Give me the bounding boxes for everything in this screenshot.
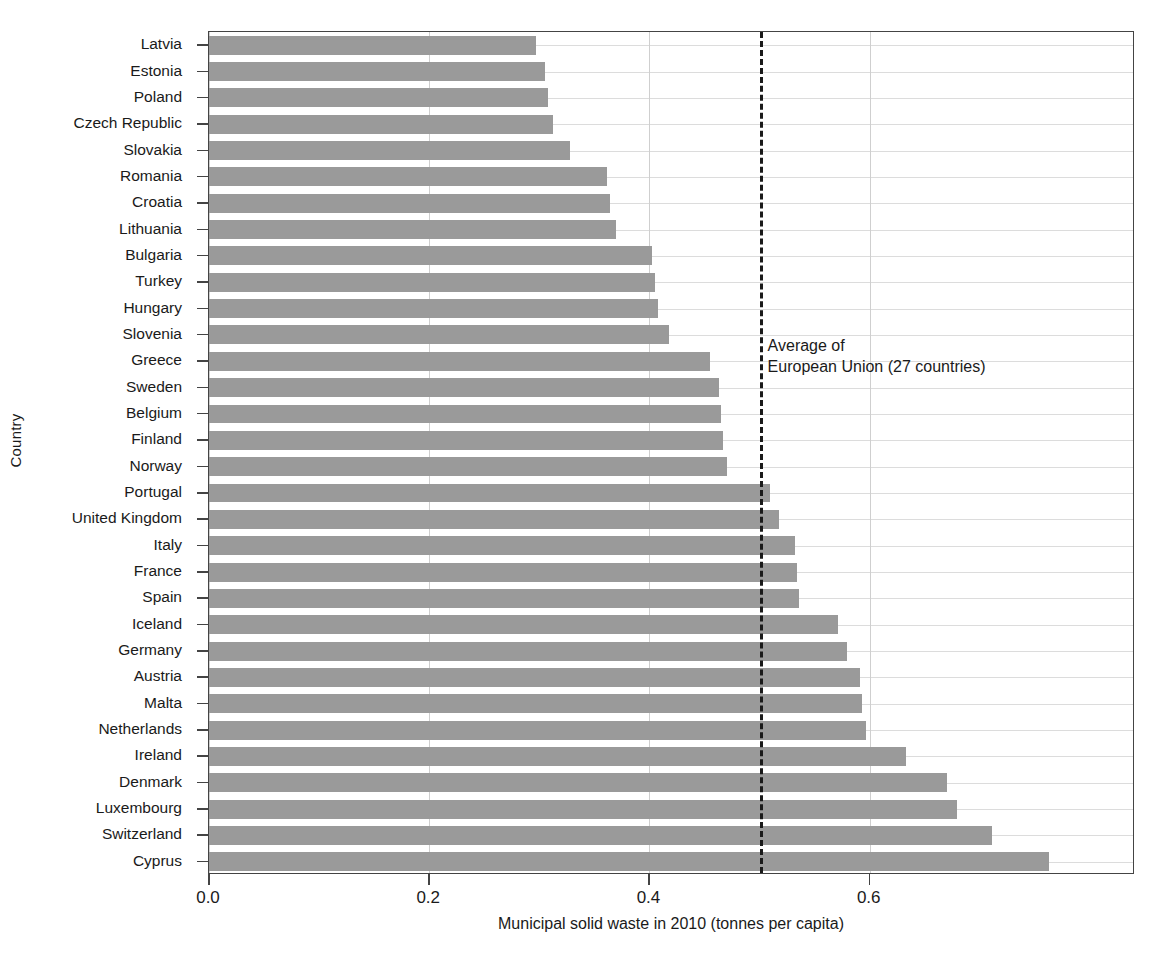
y-tick-label-united-kingdom: United Kingdom: [72, 509, 182, 527]
bar: [209, 246, 652, 265]
bar: [209, 167, 607, 186]
y-tick-mark: [197, 729, 208, 731]
y-tick-label-spain: Spain: [142, 588, 182, 606]
y-tick-mark: [197, 255, 208, 257]
y-tick-mark: [197, 808, 208, 810]
x-tick-mark: [648, 874, 650, 885]
bar: [209, 694, 862, 713]
y-tick-label-norway: Norway: [129, 457, 182, 475]
y-tick-mark: [197, 466, 208, 468]
y-tick-mark: [197, 597, 208, 599]
bar: [209, 88, 548, 107]
y-tick-mark: [197, 703, 208, 705]
bar: [209, 747, 906, 766]
y-tick-mark: [197, 518, 208, 520]
y-tick-mark: [197, 650, 208, 652]
y-tick-label-belgium: Belgium: [126, 404, 182, 422]
bar: [209, 141, 570, 160]
y-tick-mark: [197, 676, 208, 678]
x-tick-mark: [869, 874, 871, 885]
y-tick-mark: [197, 545, 208, 547]
bar: [209, 773, 947, 792]
bar: [209, 615, 838, 634]
y-tick-mark: [197, 334, 208, 336]
y-tick-mark: [197, 755, 208, 757]
eu-average-dashed-line: [760, 32, 763, 873]
y-tick-label-cyprus: Cyprus: [133, 852, 182, 870]
y-tick-label-slovenia: Slovenia: [123, 325, 182, 343]
plot-area: Average of European Union (27 countries): [208, 31, 1134, 874]
bar: [209, 510, 779, 529]
y-tick-mark: [197, 71, 208, 73]
bar: [209, 721, 866, 740]
bar: [209, 194, 610, 213]
x-tick-mark: [208, 874, 210, 885]
bar: [209, 299, 658, 318]
y-tick-label-estonia: Estonia: [130, 62, 182, 80]
y-tick-label-hungary: Hungary: [123, 299, 182, 317]
x-tick-label-0.6: 0.6: [857, 888, 881, 908]
bar: [209, 115, 553, 134]
bar: [209, 536, 795, 555]
bar: [209, 852, 1049, 871]
y-tick-label-slovakia: Slovakia: [123, 141, 182, 159]
y-tick-mark: [197, 360, 208, 362]
y-tick-label-turkey: Turkey: [135, 272, 182, 290]
y-tick-label-romania: Romania: [120, 167, 182, 185]
y-tick-mark: [197, 387, 208, 389]
y-tick-label-greece: Greece: [131, 351, 182, 369]
y-axis-tick-labels: LatviaEstoniaPolandCzech RepublicSlovaki…: [0, 31, 182, 874]
y-tick-mark: [197, 308, 208, 310]
x-axis-title: Municipal solid waste in 2010 (tonnes pe…: [208, 915, 1134, 933]
bar: [209, 589, 799, 608]
y-tick-label-malta: Malta: [144, 694, 182, 712]
y-tick-label-austria: Austria: [134, 667, 182, 685]
y-tick-label-iceland: Iceland: [132, 615, 182, 633]
bar: [209, 325, 669, 344]
y-tick-mark: [197, 624, 208, 626]
chart-figure: Country LatviaEstoniaPolandCzech Republi…: [0, 0, 1159, 960]
y-tick-label-germany: Germany: [118, 641, 182, 659]
y-tick-label-portugal: Portugal: [124, 483, 182, 501]
annotation-line-1: Average of: [768, 336, 986, 356]
x-tick-mark: [428, 874, 430, 885]
bar: [209, 457, 727, 476]
bar: [209, 273, 655, 292]
annotation-line-2: European Union (27 countries): [768, 357, 986, 377]
bar: [209, 378, 719, 397]
bar: [209, 800, 957, 819]
y-tick-mark: [197, 150, 208, 152]
y-tick-label-netherlands: Netherlands: [98, 720, 182, 738]
y-tick-label-ireland: Ireland: [135, 746, 182, 764]
y-tick-mark: [197, 97, 208, 99]
y-tick-label-poland: Poland: [134, 88, 182, 106]
x-tick-label-0.0: 0.0: [196, 888, 220, 908]
bar: [209, 484, 770, 503]
y-tick-mark: [197, 176, 208, 178]
y-tick-mark: [197, 202, 208, 204]
bar: [209, 431, 723, 450]
y-tick-label-france: France: [134, 562, 182, 580]
bar: [209, 62, 545, 81]
y-tick-label-lithuania: Lithuania: [119, 220, 182, 238]
bar: [209, 405, 721, 424]
y-tick-label-denmark: Denmark: [119, 773, 182, 791]
y-tick-mark: [197, 782, 208, 784]
bar: [209, 36, 536, 55]
y-tick-label-czech-republic: Czech Republic: [73, 114, 182, 132]
y-tick-label-latvia: Latvia: [141, 35, 182, 53]
y-tick-mark: [197, 123, 208, 125]
y-tick-label-switzerland: Switzerland: [102, 825, 182, 843]
y-tick-mark: [197, 439, 208, 441]
y-tick-label-sweden: Sweden: [126, 378, 182, 396]
y-tick-label-croatia: Croatia: [132, 193, 182, 211]
y-tick-mark: [197, 44, 208, 46]
x-tick-label-0.2: 0.2: [416, 888, 440, 908]
bar: [209, 826, 992, 845]
bar: [209, 563, 797, 582]
bar: [209, 352, 710, 371]
y-tick-label-bulgaria: Bulgaria: [125, 246, 182, 264]
x-tick-label-0.4: 0.4: [637, 888, 661, 908]
bar: [209, 220, 616, 239]
y-tick-mark: [197, 229, 208, 231]
